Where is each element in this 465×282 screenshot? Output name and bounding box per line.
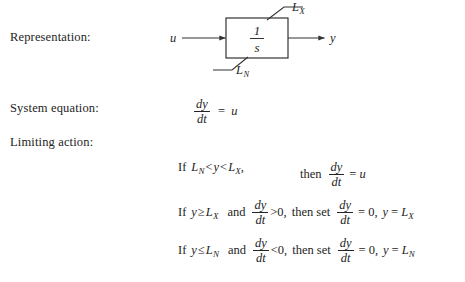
limiting-consequent-row-1: then dy dt =u (300, 161, 366, 189)
then-set-keyword: then set (292, 205, 331, 219)
assignment-equals-sign-2: = (388, 205, 401, 219)
limit-variable-subscript: N (213, 249, 219, 259)
consequent-derivative-fraction: dy dt (329, 161, 345, 189)
assigned-derivative-fraction: dy dt (338, 237, 354, 265)
block-diagram-svg: u 1 s y LX LN (160, 0, 465, 88)
relation-operator-2: < (219, 160, 228, 174)
comma-separator: , (241, 160, 244, 174)
figure-canvas: Representation: System equation: Limitin… (0, 0, 465, 282)
derivative-relation: >0, (270, 205, 286, 219)
derivative-numerator: dy (194, 98, 210, 113)
assigned-derivative-fraction: dy dt (337, 199, 353, 227)
relation-operator: ≥ (197, 205, 206, 219)
derivative-fraction: dy dt (194, 98, 210, 126)
limit-variable: L (206, 243, 213, 257)
assigned-derivative-denominator: dt (338, 251, 354, 265)
then-set-keyword: then set (292, 243, 331, 257)
system-equation-label: System equation: (10, 101, 99, 116)
derivative-fraction: dy dt (253, 237, 269, 265)
assigned-derivative-denominator: dt (337, 213, 353, 227)
system-equation-formula: dy dt = u (192, 98, 237, 126)
equation-rhs: u (231, 104, 237, 118)
consequent-equals-sign: = (346, 167, 359, 181)
input-label: u (170, 31, 176, 45)
lower-limit-label: LN (235, 63, 250, 79)
assignment-equals-sign-2: = (389, 243, 402, 257)
assigned-limit-subscript: N (409, 249, 415, 259)
limiting-condition-row-3: Ify≤LNand dy dt <0,then set dy dt =0,y=L… (178, 237, 415, 265)
if-keyword: If (178, 205, 186, 219)
consequent-result: u (359, 167, 365, 181)
and-keyword: and (228, 243, 246, 257)
assignment-equals-sign-1: = (355, 205, 368, 219)
upper-limit-label: LX (291, 0, 305, 16)
if-keyword: If (178, 160, 186, 174)
if-keyword: If (178, 243, 186, 257)
limiting-condition-row-1: IfLN<y<LX, (178, 161, 244, 176)
limit-variable: L (206, 205, 213, 219)
transfer-function-numerator: 1 (254, 23, 261, 38)
representation-label: Representation: (10, 30, 91, 45)
derivative-denominator: dt (194, 112, 210, 126)
zero-value: 0, (368, 205, 377, 219)
limit-variable-subscript: X (213, 211, 219, 221)
and-keyword: and (227, 205, 245, 219)
limiting-condition-row-2: Ify≥LXand dy dt >0,then set dy dt =0,y=L… (178, 199, 414, 227)
assigned-limit-variable: L (402, 243, 409, 257)
relation-operator: ≤ (197, 243, 206, 257)
derivative-relation: <0, (271, 243, 287, 257)
derivative-fraction: dy dt (252, 199, 268, 227)
consequent-derivative-denominator: dt (329, 175, 345, 189)
upper-limit-subscript: X (298, 6, 305, 16)
assigned-derivative-numerator: dy (338, 237, 354, 252)
derivative-denominator: dt (253, 251, 269, 265)
equals-sign: = (215, 104, 228, 118)
then-keyword: then (300, 167, 322, 181)
relation-operator-1: < (204, 160, 213, 174)
assigned-limit-subscript: X (408, 211, 414, 221)
transfer-function-denominator: s (254, 40, 259, 55)
integrator-block-diagram: u 1 s y LX LN (160, 0, 465, 88)
assigned-state-variable: y (383, 243, 389, 257)
zero-value: 0, (369, 243, 378, 257)
output-label: y (328, 31, 336, 45)
assignment-equals-sign-1: = (356, 243, 369, 257)
consequent-derivative-numerator: dy (329, 161, 345, 176)
lower-limit-subscript: N (242, 69, 250, 79)
assigned-derivative-numerator: dy (337, 199, 353, 214)
derivative-numerator: dy (252, 199, 268, 214)
limiting-action-label: Limiting action: (10, 135, 93, 150)
derivative-numerator: dy (253, 237, 269, 252)
derivative-denominator: dt (252, 213, 268, 227)
